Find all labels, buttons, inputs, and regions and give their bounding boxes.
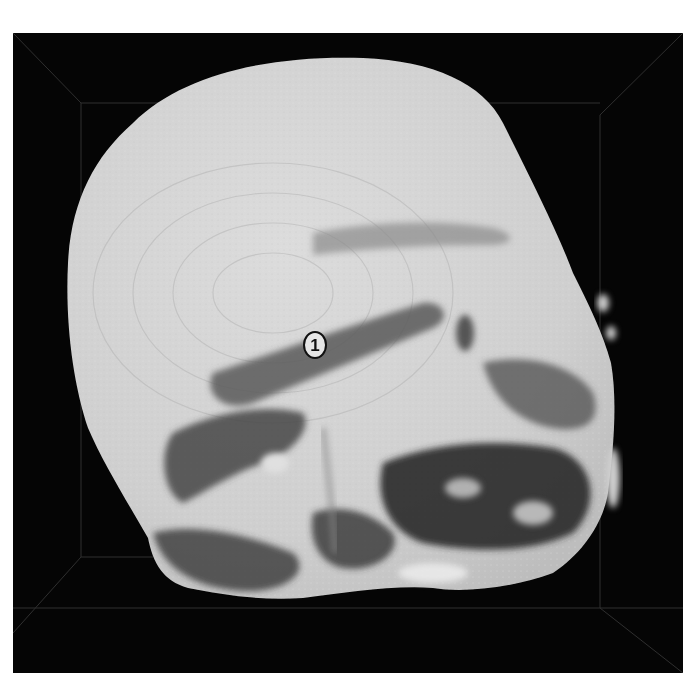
volume-render (13, 33, 683, 673)
render-viewport (13, 33, 683, 673)
annotation-marker-1: 1 (303, 331, 327, 359)
annotation-label: 1 (310, 337, 319, 354)
